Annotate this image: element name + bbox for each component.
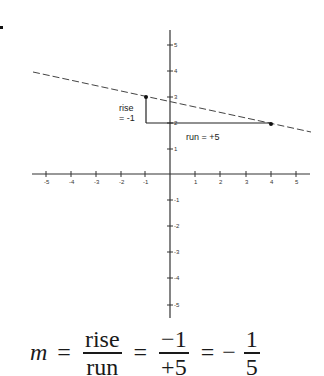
svg-text:-1: -1 [143,179,149,185]
svg-text:3: 3 [245,179,249,185]
svg-text:-5: -5 [174,302,180,308]
fraction-numerator: −1 [159,326,189,352]
svg-text:1: 1 [174,146,178,152]
svg-text:-3: -3 [94,179,100,185]
svg-text:4: 4 [174,68,178,74]
fraction-rise-run: rise run [83,326,122,376]
svg-text:4: 4 [270,179,274,185]
fraction-denominator: run [84,354,120,376]
fraction-numerator: rise [83,326,122,352]
point-neg1-3 [144,95,148,99]
svg-text:-4: -4 [69,179,75,185]
svg-text:-1: -1 [174,197,180,203]
svg-text:3: 3 [174,94,178,100]
x-tick-labels: -5 -4 -3 -2 -1 1 2 3 4 5 [44,179,299,185]
svg-text:-3: -3 [174,249,180,255]
svg-text:-5: -5 [44,179,50,185]
fraction-numerator: 1 [244,326,260,352]
svg-text:-4: -4 [174,275,180,281]
fraction-denominator: 5 [244,354,260,376]
equals-sign: = [134,339,148,366]
coordinate-plane: -5 -4 -3 -2 -1 1 2 3 4 5 5 4 3 2 1 -1 -2… [0,0,324,376]
svg-text:5: 5 [295,179,299,185]
equals-sign: = [201,339,215,366]
slope-variable: m [30,339,47,366]
svg-text:2: 2 [219,179,223,185]
fraction-values: −1 +5 [159,326,189,376]
svg-text:-2: -2 [174,223,180,229]
svg-text:1: 1 [194,179,198,185]
svg-text:5: 5 [174,42,178,48]
fraction-denominator: +5 [159,354,189,376]
rise-value-label: = -1 [119,113,135,123]
equals-sign: = [57,339,71,366]
y-tick-labels: 5 4 3 2 1 -1 -2 -3 -4 -5 [174,42,180,308]
slope-formula: m = rise run = −1 +5 = − 1 5 [30,326,264,376]
run-label: run = +5 [186,132,220,142]
fraction-result: 1 5 [244,326,260,376]
minus-sign: − [222,339,236,366]
rise-label: rise [119,103,134,113]
svg-text:-2: -2 [119,179,125,185]
point-4-2 [269,122,273,126]
